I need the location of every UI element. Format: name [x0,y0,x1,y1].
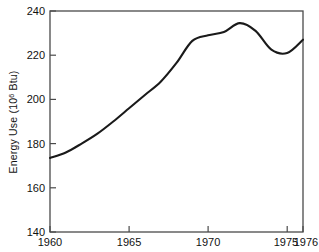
svg-text:Energy Use (106 Btu): Energy Use (106 Btu) [7,70,19,173]
y-tick-label: 220 [27,49,45,61]
x-tick-label: 1970 [196,236,220,248]
chart-background [0,0,319,252]
line-chart: 240 220 200 180 160 140 1960 1965 1970 1… [0,0,319,252]
x-tick-label: 1976 [294,236,318,248]
y-axis-title-tail: Btu) [7,70,19,93]
x-tick-label: 1965 [117,236,141,248]
x-tick-label: 1960 [38,236,62,248]
y-tick-label: 240 [27,5,45,17]
y-axis-title-base: Energy Use (10 [7,98,19,174]
y-tick-label: 160 [27,182,45,194]
y-axis-title: Energy Use (106 Btu) [7,70,19,173]
y-tick-label: 180 [27,138,45,150]
chart-figure: 240 220 200 180 160 140 1960 1965 1970 1… [0,0,319,252]
y-tick-label: 200 [27,93,45,105]
